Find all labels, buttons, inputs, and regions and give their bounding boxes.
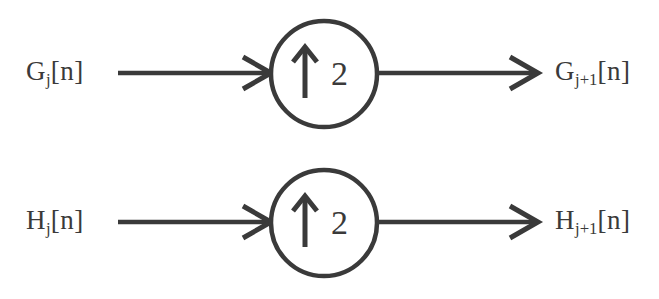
g-input-index: [n] (51, 56, 84, 86)
diagram-vector-layer (0, 0, 659, 299)
g-upsample-factor: 2 (331, 57, 348, 91)
g-output-base: G (555, 56, 575, 86)
g-input-base: G (26, 56, 46, 86)
h-input-subscript: j (46, 219, 51, 238)
h-input-signal-label: Hj[n] (26, 207, 84, 234)
g-output-index: [n] (597, 56, 630, 86)
g-input-signal-label: Gj[n] (26, 58, 84, 85)
h-input-index: [n] (51, 205, 84, 235)
h-upsampler-node[interactable] (271, 170, 377, 276)
h-output-signal-label: Hj+1[n] (555, 207, 630, 234)
g-output-subscript: j+1 (575, 70, 597, 89)
h-input-base: H (26, 205, 46, 235)
h-output-base: H (555, 205, 575, 235)
h-upsample-factor: 2 (331, 206, 348, 240)
g-input-subscript: j (46, 70, 51, 89)
block-diagram-canvas: Gj[n] Gj+1[n] Hj[n] Hj+1[n] 2 2 (0, 0, 659, 299)
g-branch-group (118, 21, 538, 127)
h-output-index: [n] (597, 205, 630, 235)
g-output-signal-label: Gj+1[n] (555, 58, 630, 85)
g-upsampler-node[interactable] (271, 21, 377, 127)
h-output-subscript: j+1 (575, 219, 597, 238)
h-branch-group (118, 170, 538, 276)
